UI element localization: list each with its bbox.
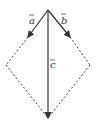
svg-text:c: c [50, 59, 56, 70]
label-a: a [29, 15, 35, 26]
svg-text:a: a [29, 15, 35, 26]
label-b: b [61, 14, 67, 26]
svg-text:b: b [61, 15, 67, 26]
vector-diagram: a b c [0, 0, 95, 131]
label-c: c [50, 59, 56, 70]
